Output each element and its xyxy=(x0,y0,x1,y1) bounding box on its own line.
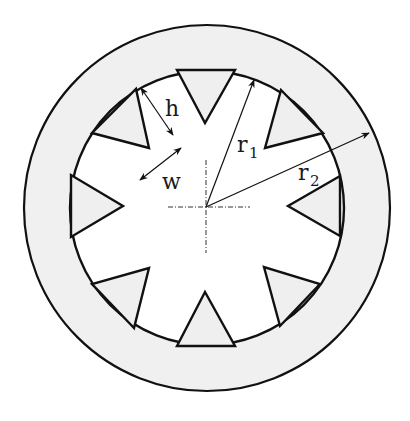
r1-label: r xyxy=(237,132,248,157)
r2-label: r xyxy=(298,160,309,185)
r1-subscript: 1 xyxy=(249,144,259,162)
stator-cross-section-diagram: h w r 1 r 2 xyxy=(0,0,410,421)
w-label: w xyxy=(162,169,181,194)
h-label: h xyxy=(165,96,179,121)
r2-subscript: 2 xyxy=(310,172,320,190)
